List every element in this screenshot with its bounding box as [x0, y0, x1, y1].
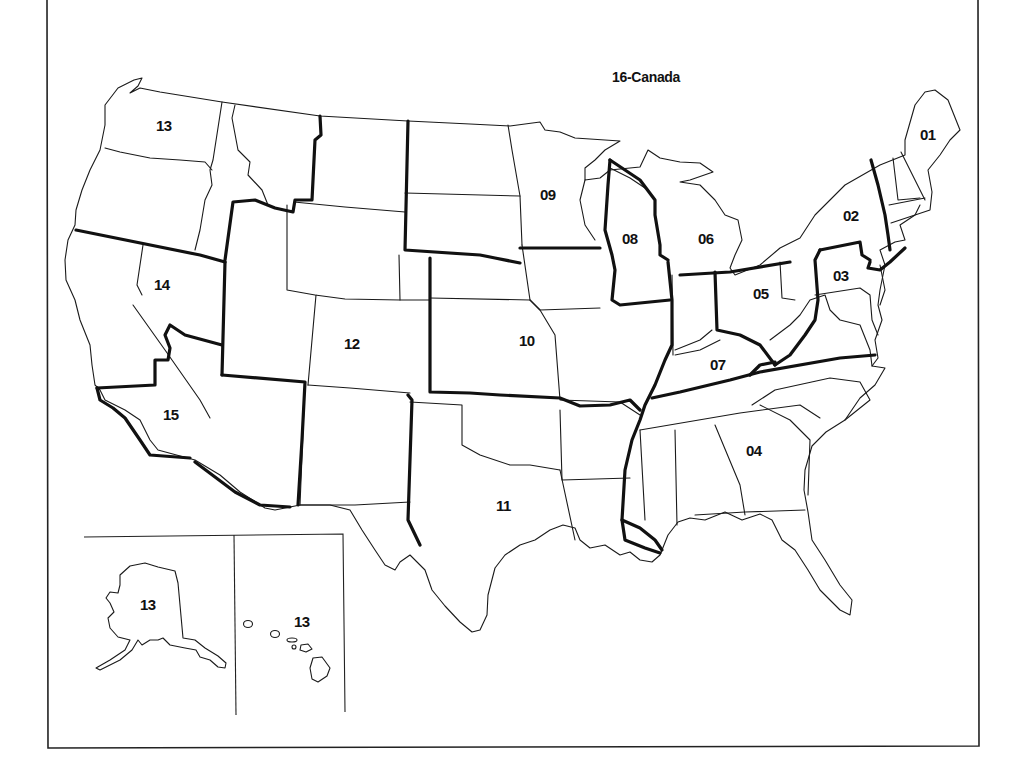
inset-divider — [234, 535, 236, 715]
region-label-13: 13 — [156, 117, 172, 134]
hawaii-inset: 13 — [244, 613, 331, 682]
hawaii-island-kauai — [244, 621, 253, 628]
region-map: 16-Canada 01 02 03 04 05 06 07 08 09 10 … — [0, 0, 1026, 771]
region-label-01: 01 — [920, 126, 936, 143]
region-label-04: 04 — [746, 442, 763, 459]
region-label-02: 02 — [843, 207, 859, 224]
region-label-14: 14 — [154, 276, 171, 293]
alaska-region-label: 13 — [140, 596, 156, 613]
alaska-shape — [96, 563, 226, 670]
region-label-12: 12 — [344, 335, 360, 352]
region-label-09: 09 — [540, 186, 556, 203]
region-label-07: 07 — [710, 356, 726, 373]
region-label-05: 05 — [753, 285, 769, 302]
region-label-16-canada: 16-Canada — [612, 69, 681, 85]
region-label-08: 08 — [622, 230, 638, 247]
region-label-11: 11 — [496, 497, 511, 514]
hawaii-island-big-island — [310, 657, 330, 682]
hawaii-region-label: 13 — [294, 613, 310, 630]
hawaii-island-oahu — [271, 631, 280, 638]
hawaii-island-maui — [300, 644, 312, 652]
hawaii-island-lanai — [292, 645, 296, 649]
hawaii-island-molokai — [287, 638, 297, 642]
region-label-10: 10 — [519, 332, 535, 349]
region-label-03: 03 — [833, 267, 849, 284]
inset-panels: 13 13 — [84, 534, 345, 715]
region-label-15: 15 — [163, 406, 179, 423]
alaska-inset: 13 — [96, 563, 226, 670]
us-region-map-svg: 16-Canada 01 02 03 04 05 06 07 08 09 10 … — [0, 0, 1026, 771]
region-label-06: 06 — [698, 230, 714, 247]
